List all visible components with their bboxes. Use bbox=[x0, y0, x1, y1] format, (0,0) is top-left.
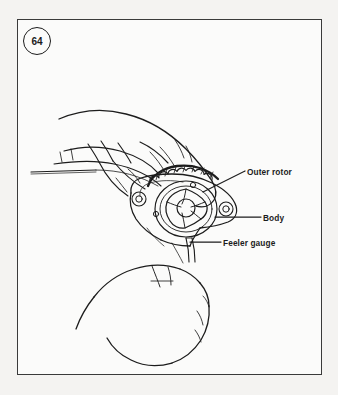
callout-label-feeler-gauge: Feeler gauge bbox=[223, 238, 275, 248]
callout-label-body: Body bbox=[263, 213, 284, 223]
figure-number-badge: 64 bbox=[23, 27, 51, 55]
figure-page: 64 Outer rotor Body Feeler gauge bbox=[0, 0, 338, 395]
figure-frame bbox=[17, 19, 322, 375]
callout-label-outer-rotor: Outer rotor bbox=[247, 167, 292, 177]
